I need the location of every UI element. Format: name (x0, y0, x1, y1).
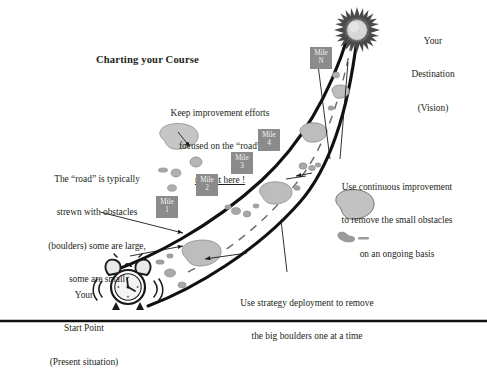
note-road-obstacles-line-3: (boulders) some are large, (16, 241, 178, 252)
note-continuous-improvement-line-3: on an ongoing basis (312, 249, 482, 260)
note-road-obstacles-line-2: strewn with obstacles (16, 207, 178, 218)
note-strategy-deployment: Use strategy deployment to remove the bi… (212, 276, 402, 365)
sun-burst-icon (334, 7, 380, 53)
mile-marker-number: 1 (156, 207, 178, 215)
destination-label-line-3: (Vision) (392, 103, 474, 114)
note-strategy-deployment-line-1: Use strategy deployment to remove (212, 298, 402, 309)
note-continuous-improvement: Use continuous improvement to remove the… (312, 160, 482, 282)
mile-marker-number: 3 (231, 163, 253, 171)
note-continuous-improvement-line-2: to remove the small obstacles (312, 215, 482, 226)
destination-label-line-1: Your (392, 36, 474, 47)
note-continuous-improvement-line-1: Use continuous improvement (312, 182, 482, 193)
destination-label-line-2: Destination (392, 69, 474, 80)
page-title: Charting your Course (96, 54, 199, 67)
start-point-label-line-2: Start Point (30, 323, 138, 334)
note-strategy-deployment-line-2: the big boulders one at a time (212, 331, 402, 342)
mile-marker-number: N (310, 58, 332, 66)
mile-marker-number: 2 (196, 185, 218, 193)
mile-marker-n: MileN (310, 47, 332, 69)
mile-marker-4: Mile4 (258, 129, 280, 151)
note-road-obstacles-line-1: The “road” is typically (16, 174, 178, 185)
mile-marker-number: 4 (258, 140, 280, 148)
mile-marker-3: Mile3 (231, 152, 253, 174)
note-road-obstacles-line-4: some are small (16, 274, 178, 285)
mile-marker-1: Mile1 (156, 196, 178, 218)
start-point-label-line-3: (Present situation) (30, 357, 138, 368)
note-road-obstacles: The “road” is typically strewn with obst… (16, 152, 178, 307)
note-keep-focus-line-1: Keep improvement efforts (146, 108, 294, 119)
destination-label: Your Destination (Vision) (392, 14, 474, 136)
mile-marker-2: Mile2 (196, 174, 218, 196)
